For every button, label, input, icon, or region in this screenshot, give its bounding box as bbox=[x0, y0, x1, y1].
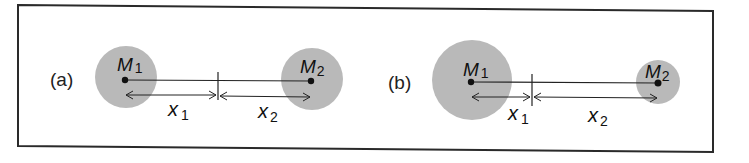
x2-label: x2 bbox=[587, 104, 608, 129]
panel-a-label: (a) bbox=[50, 69, 73, 90]
x1-label: x1 bbox=[507, 102, 529, 127]
center-of-mass-diagram: (a) M1 M2 x1 x2 (b) bbox=[0, 0, 749, 163]
mass-m2-center-dot bbox=[308, 78, 314, 84]
panel-b-label: (b) bbox=[388, 72, 411, 93]
x1-label: x1 bbox=[167, 98, 189, 123]
x2-label: x2 bbox=[257, 100, 278, 125]
mass-m1-center-dot bbox=[122, 77, 128, 83]
x2-arrow bbox=[534, 93, 657, 102]
panel-b: (b) M1 M2 x1 x2 bbox=[388, 40, 680, 129]
panel-a: (a) M1 M2 x1 x2 bbox=[50, 46, 343, 125]
